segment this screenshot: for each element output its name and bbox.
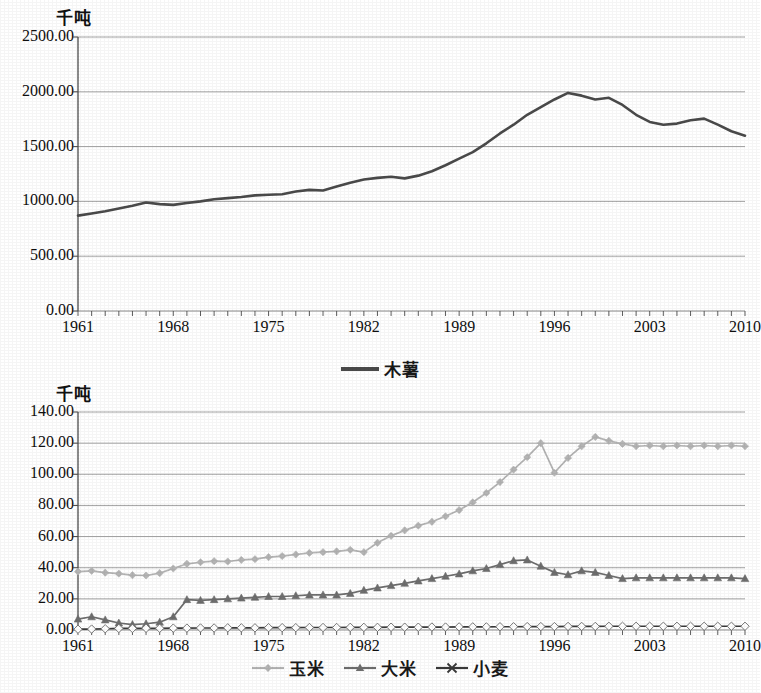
- marker-diamond: [456, 507, 463, 514]
- marker-diamond: [251, 556, 258, 563]
- marker-x: [686, 622, 694, 630]
- legend-entry-玉米[interactable]: 玉米: [251, 655, 325, 680]
- series-line-小麦: [78, 626, 745, 629]
- marker-diamond: [401, 527, 408, 534]
- marker-diamond: [714, 443, 721, 450]
- cassava-plot-area: [0, 0, 760, 340]
- marker-x: [87, 625, 95, 633]
- marker-x: [237, 624, 245, 632]
- marker-diamond: [142, 572, 149, 579]
- legend-swatch-玉米: [251, 661, 285, 675]
- marker-diamond: [115, 570, 122, 577]
- marker-triangle: [88, 613, 96, 620]
- legend-entry-大米[interactable]: 大米: [343, 655, 417, 680]
- marker-x: [591, 622, 599, 630]
- marker-x: [714, 622, 722, 630]
- marker-diamond: [197, 559, 204, 566]
- marker-diamond: [224, 558, 231, 565]
- marker-diamond: [88, 567, 95, 574]
- marker-x: [74, 625, 82, 633]
- marker-diamond: [170, 565, 177, 572]
- marker-x: [673, 622, 681, 630]
- marker-diamond: [74, 568, 81, 575]
- marker-x: [577, 622, 585, 630]
- marker-x: [251, 624, 259, 632]
- marker-diamond: [687, 443, 694, 450]
- marker-x: [169, 624, 177, 632]
- marker-x: [646, 622, 654, 630]
- grains-legend: 玉米大米小麦: [0, 655, 760, 680]
- marker-diamond: [211, 558, 218, 565]
- marker-diamond: [319, 549, 326, 556]
- marker-diamond: [415, 522, 422, 529]
- grains-chart: 千吨 0.0020.0040.0060.0080.00100.00120.001…: [0, 378, 760, 693]
- legend-label-小麦: 小麦: [473, 655, 509, 680]
- marker-diamond: [183, 560, 190, 567]
- marker-diamond: [442, 513, 449, 520]
- grains-plot-area: [0, 378, 760, 668]
- legend-swatch-木薯: [340, 362, 380, 376]
- marker-x: [564, 622, 572, 630]
- marker-diamond: [347, 546, 354, 553]
- marker-diamond: [102, 569, 109, 576]
- marker-diamond: [633, 443, 640, 450]
- marker-x: [183, 624, 191, 632]
- marker-diamond: [619, 440, 626, 447]
- marker-x: [727, 622, 735, 630]
- marker-diamond: [292, 551, 299, 558]
- series-line-木薯: [78, 93, 745, 216]
- marker-x: [700, 622, 708, 630]
- marker-x: [278, 623, 286, 631]
- marker-x: [605, 622, 613, 630]
- legend-entry-小麦[interactable]: 小麦: [435, 655, 509, 680]
- marker-diamond: [238, 556, 245, 563]
- marker-diamond: [265, 554, 272, 561]
- marker-x: [196, 624, 204, 632]
- marker-diamond: [279, 552, 286, 559]
- marker-diamond: [333, 548, 340, 555]
- marker-diamond: [428, 518, 435, 525]
- marker-diamond: [387, 532, 394, 539]
- marker-x: [210, 624, 218, 632]
- marker-diamond: [741, 443, 748, 450]
- marker-x: [292, 623, 300, 631]
- legend-label-大米: 大米: [381, 655, 417, 680]
- series-line-大米: [78, 560, 745, 625]
- marker-x: [101, 625, 109, 633]
- marker-x: [224, 624, 232, 632]
- series-line-玉米: [78, 437, 745, 576]
- marker-diamond: [306, 549, 313, 556]
- marker-diamond: [156, 570, 163, 577]
- cassava-chart: 千吨 0.00500.001000.001500.002000.002500.0…: [0, 0, 760, 390]
- marker-diamond: [660, 443, 667, 450]
- marker-x: [632, 622, 640, 630]
- legend-swatch-大米: [343, 661, 377, 675]
- marker-x: [264, 623, 272, 631]
- marker-x: [618, 622, 626, 630]
- marker-x: [659, 622, 667, 630]
- legend-swatch-小麦: [435, 661, 469, 675]
- marker-x: [741, 622, 749, 630]
- marker-diamond: [129, 572, 136, 579]
- legend-label-玉米: 玉米: [289, 655, 325, 680]
